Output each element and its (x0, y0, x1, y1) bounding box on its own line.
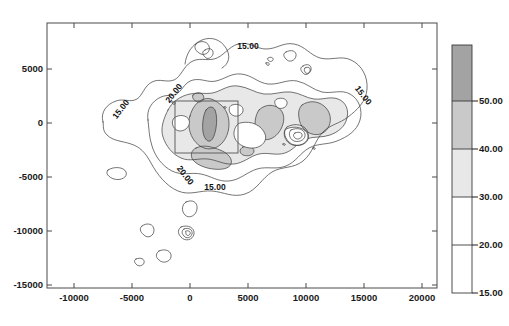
y-tick-label: -10000 (13, 225, 43, 236)
contour-label-15-top: 15.00 (237, 41, 259, 51)
colorbar-tick-label: 15.00 (479, 287, 503, 298)
contour-hole-c (275, 98, 287, 108)
contour-label-15-south: 15.00 (204, 182, 226, 192)
x-tick-label: 10000 (293, 292, 319, 303)
x-tick-label: 5000 (237, 292, 258, 303)
colorbar-band-15-20 (452, 245, 472, 293)
x-tick-label: -5000 (120, 292, 144, 303)
colorbar-tick-label: 50.00 (479, 95, 503, 106)
x-tick-label: 0 (187, 292, 192, 303)
colorbar-tick-label: 40.00 (479, 143, 503, 154)
colorbar-tick-label: 20.00 (479, 239, 503, 250)
x-tick-label: -10000 (59, 292, 89, 303)
colorbar-tick-label: 30.00 (479, 191, 503, 202)
x-tick-label: 20000 (409, 292, 435, 303)
x-tick-label: 15000 (351, 292, 377, 303)
y-tick-label: 0 (38, 117, 43, 128)
colorbar-band-30-40 (452, 149, 472, 197)
colorbar-band-50-60 (452, 45, 472, 101)
y-tick-label: -5000 (19, 171, 43, 182)
y-tick-label: -15000 (13, 279, 43, 290)
y-tick-label: 5000 (22, 63, 43, 74)
contour-hole-b (229, 104, 243, 116)
contour-figure: 15.00 15.00 20.00 20.00 15.00 15.00 (0, 0, 509, 326)
colorbar-band-20-30 (452, 197, 472, 245)
colorbar-band-40-50 (452, 101, 472, 149)
